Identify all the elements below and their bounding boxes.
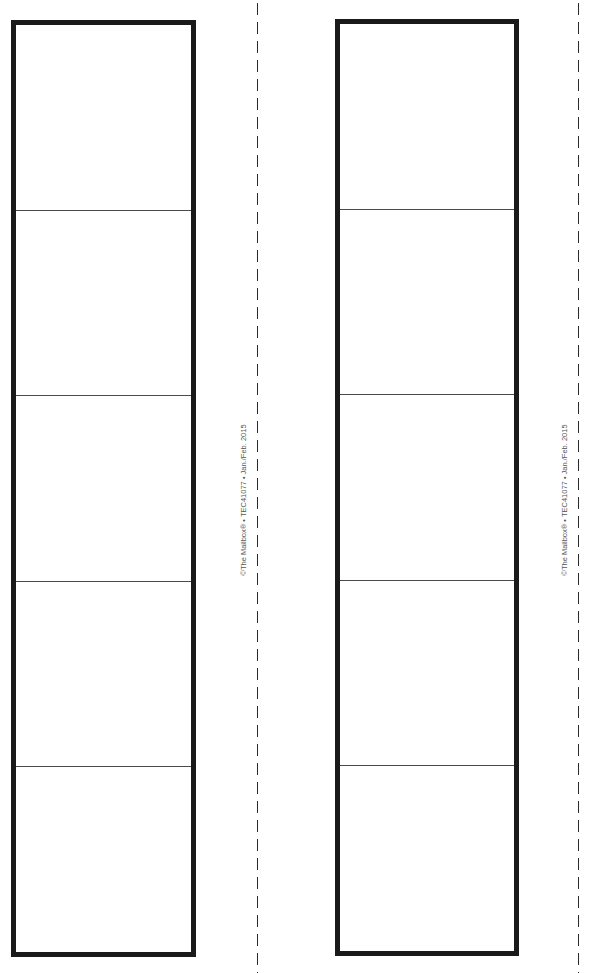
strip-cell-1 xyxy=(16,25,191,211)
strip-cell-2 xyxy=(16,211,191,397)
strip-left xyxy=(11,20,196,957)
strip-cell-4 xyxy=(340,581,514,767)
strip-cell-5 xyxy=(340,766,514,951)
strip-cell-3 xyxy=(16,396,191,582)
copyright-credit-right: ©The Mailbox® • TEC41077 • Jan./Feb. 201… xyxy=(560,424,569,575)
strip-right xyxy=(335,19,519,956)
cut-line-right xyxy=(578,3,579,973)
strip-cell-3 xyxy=(340,395,514,581)
strip-cell-2 xyxy=(340,210,514,396)
strip-cell-5 xyxy=(16,767,191,952)
cut-line-left xyxy=(257,3,258,973)
copyright-credit-left: ©The Mailbox® • TEC41077 • Jan./Feb. 201… xyxy=(239,424,248,575)
strip-cell-4 xyxy=(16,582,191,768)
strip-cell-1 xyxy=(340,24,514,210)
